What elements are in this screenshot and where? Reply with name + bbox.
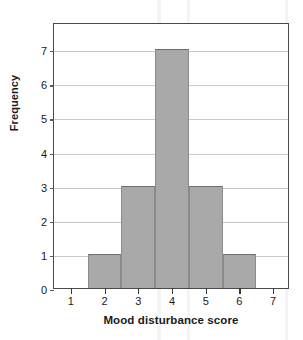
y-tick-mark — [50, 85, 54, 86]
x-tick-label: 2 — [102, 296, 108, 307]
x-tick-label: 1 — [68, 296, 74, 307]
x-tick-label: 4 — [169, 296, 175, 307]
y-tick-label: 2 — [41, 216, 47, 227]
histogram-bar — [88, 254, 122, 288]
y-tick-mark — [50, 222, 54, 223]
x-axis-title: Mood disturbance score — [53, 314, 289, 326]
y-tick-mark — [50, 119, 54, 120]
y-tick-mark — [50, 256, 54, 257]
x-tick-mark — [71, 288, 72, 294]
y-tick-label: 7 — [41, 46, 47, 57]
y-tick-label: 3 — [41, 182, 47, 193]
plot-area: 01234567 1234567 — [53, 23, 289, 289]
y-tick-label: 1 — [41, 250, 47, 261]
y-tick-label: 5 — [41, 114, 47, 125]
y-tick-mark — [50, 188, 54, 189]
x-tick-label: 6 — [236, 296, 242, 307]
y-tick-label: 4 — [41, 148, 47, 159]
x-tick-mark — [206, 288, 207, 294]
x-tick-mark — [239, 288, 240, 294]
y-tick-mark — [50, 154, 54, 155]
x-tick-mark — [138, 288, 139, 294]
y-tick-label: 0 — [41, 285, 47, 296]
histogram-bar — [155, 49, 189, 288]
y-tick-mark — [50, 290, 54, 291]
y-tick-mark — [50, 51, 54, 52]
histogram-bar — [189, 186, 223, 288]
histogram-figure: Frequency 01234567 1234567 Mood disturba… — [0, 0, 303, 340]
y-axis-title: Frequency — [8, 58, 24, 148]
histogram-bar — [223, 254, 257, 288]
x-tick-mark — [105, 288, 106, 294]
y-tick-label: 6 — [41, 80, 47, 91]
histogram-bar — [121, 186, 155, 288]
x-tick-label: 7 — [270, 296, 276, 307]
x-tick-label: 5 — [203, 296, 209, 307]
x-tick-label: 3 — [135, 296, 141, 307]
x-tick-mark — [172, 288, 173, 294]
x-tick-mark — [273, 288, 274, 294]
